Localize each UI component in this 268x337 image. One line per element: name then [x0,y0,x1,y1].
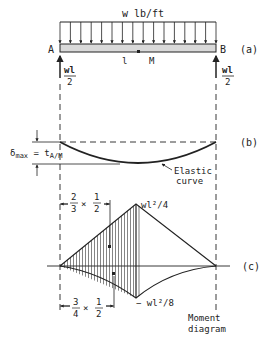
moment-caption: Moment [188,313,221,323]
part-b-label: (b) [240,137,258,148]
curve-label: curve [176,176,203,186]
reaction-left-den: 2 [67,77,72,87]
reaction-right-den: 2 [225,77,230,87]
beam: A B l M (a) [48,44,258,66]
delta-max-label: δmax = tA/M [10,148,62,160]
max-negative-moment-label: − wl²/8 [136,298,174,308]
elastic-curve [60,142,216,163]
negative-moment-parabola [60,266,216,298]
reactions: wl 2 wl 2 [60,56,234,87]
reaction-left-num: wl [64,65,75,75]
dim-top-b-den: 2 [94,204,99,214]
dim-bottom-b-den: 2 [96,309,101,319]
support-b-label: B [220,44,226,55]
dim-bottom-b-num: 1 [96,297,101,307]
load-label: w lb/ft [122,8,164,19]
load-arrows [60,22,216,43]
moment-diagram: 2 3 × 1 2 3 4 × 1 2 wl²/4 − wl²/8 Moment… [47,191,260,334]
centroid-bottom [112,272,115,275]
midpoint-label: M [149,56,155,66]
shaded-area [60,204,136,298]
dim-top-b-num: 1 [94,192,99,202]
max-positive-moment-label: wl²/4 [141,200,168,210]
dim-bottom-a-num: 3 [73,297,78,307]
dim-top-a-den: 3 [71,204,76,214]
dim-top-times: × [81,199,86,209]
reaction-right-num: wl [222,65,233,75]
centroid-top [108,245,111,248]
elastic-label: Elastic [174,166,212,176]
dim-top-a-num: 2 [71,192,76,202]
dim-bottom-a-den: 4 [73,309,78,319]
curve-pointer-icon [162,164,172,170]
beam-deflection-diagram: w lb/ft A B l M (a) wl 2 wl 2 δmax = tA/… [0,0,268,337]
midpoint-marker [137,50,140,53]
part-a-label: (a) [240,44,258,55]
dim-bottom-times: × [83,303,88,313]
support-a-label: A [48,44,54,55]
part-c-label: (c) [242,261,260,272]
diagram-caption: diagram [188,324,226,334]
distributed-load: w lb/ft [60,8,216,43]
elastic-curve-diagram: δmax = tA/M Elastic curve (b) [10,130,258,186]
length-label: l [122,56,127,66]
